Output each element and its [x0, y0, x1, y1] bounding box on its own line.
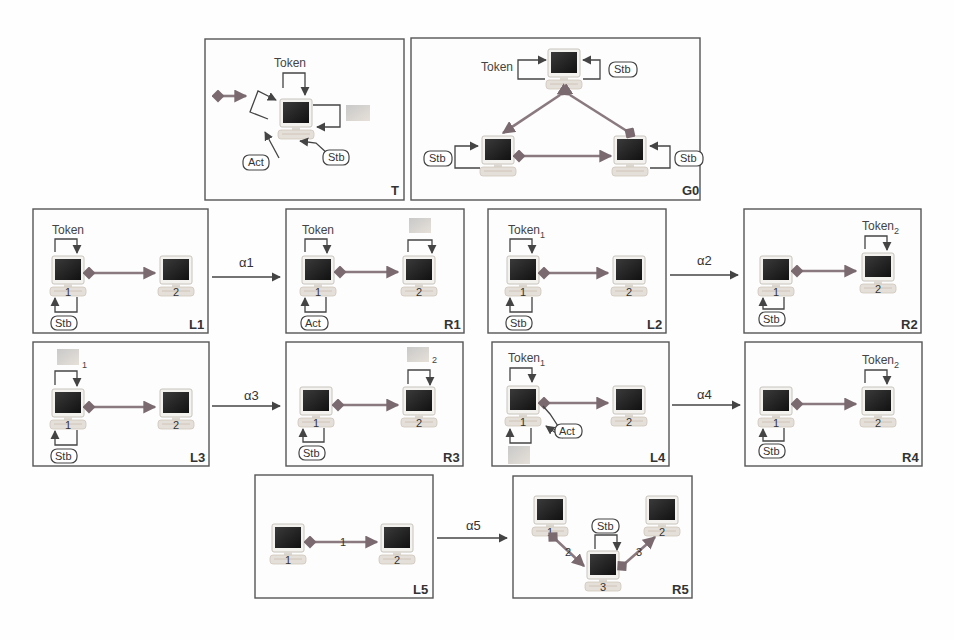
- node-number: 2: [626, 416, 632, 428]
- edge-label: 3: [636, 546, 642, 558]
- node-number: 1: [547, 526, 553, 538]
- panel-R3: 2 1 2 Stb R3: [286, 342, 463, 466]
- computer-icon: [612, 136, 648, 176]
- act-label: Act: [305, 317, 321, 329]
- rule-label: α2: [697, 253, 712, 268]
- node-number: 2: [416, 417, 422, 429]
- token-label: Token: [274, 56, 306, 70]
- node-number: 1: [315, 286, 321, 298]
- panel-L4: Token1 1 2 Act L4: [492, 342, 669, 466]
- message-icon: [409, 218, 431, 233]
- message-index: 2: [432, 355, 437, 365]
- act-label: Act: [248, 156, 264, 168]
- stb-label: Stb: [303, 447, 320, 459]
- rule-label: α3: [244, 388, 259, 403]
- rule-arrow-alpha3: α3: [212, 388, 280, 406]
- graph-transformation-diagram: Token Act Stb T Token Stb Stb Stb: [0, 0, 954, 640]
- rule-label: α1: [239, 255, 254, 270]
- message-icon: [508, 446, 530, 464]
- stb-label: Stb: [763, 313, 780, 325]
- panel-L2: Token1 1 2 Stb L2: [488, 209, 666, 333]
- stb-label: Stb: [55, 450, 72, 462]
- token-label: Token: [52, 223, 84, 237]
- rule-arrow-alpha4: α4: [672, 387, 740, 405]
- token-label: Token: [481, 60, 513, 74]
- panel-L5: 1 2 1 L5: [255, 475, 433, 598]
- rule-arrow-alpha1: α1: [212, 255, 280, 277]
- panel-label-R3: R3: [443, 450, 460, 465]
- panel-label-L2: L2: [647, 317, 662, 332]
- node-number: 2: [416, 286, 422, 298]
- node-number: 2: [875, 283, 881, 295]
- panel-G0: Token Stb Stb Stb G0: [411, 38, 703, 200]
- panel-label-R5: R5: [672, 582, 689, 597]
- token-label: Token: [302, 223, 334, 237]
- node-number: 1: [313, 417, 319, 429]
- node-number: 3: [600, 581, 606, 593]
- stb-label: Stb: [429, 152, 446, 164]
- rule-label: α5: [466, 518, 481, 533]
- stb-label: Stb: [328, 151, 345, 163]
- rule-arrow-alpha2: α2: [670, 253, 738, 275]
- node-number: 1: [773, 417, 779, 429]
- computer-icon: [480, 136, 516, 176]
- node-number: 1: [285, 554, 291, 566]
- panel-label-R4: R4: [902, 450, 919, 465]
- edge-label: 2: [565, 546, 571, 558]
- panel-label-T: T: [391, 183, 399, 198]
- panel-label-R2: R2: [901, 317, 918, 332]
- node-number: 1: [65, 419, 71, 431]
- stb-label: Stb: [763, 445, 780, 457]
- edge-label: 1: [340, 536, 346, 548]
- rule-label: α4: [697, 387, 712, 402]
- rule-arrow-alpha5: α5: [437, 518, 507, 538]
- panel-label-L1: L1: [189, 317, 204, 332]
- panel-R1: Token 1 2 Act R1: [286, 209, 464, 333]
- panel-L1: Token 1 2 Stb L1: [33, 209, 208, 333]
- node-number: 1: [520, 416, 526, 428]
- node-number: 1: [520, 286, 526, 298]
- message-icon: [57, 349, 79, 365]
- panel-L3: 1 1 2 Stb L3: [33, 342, 209, 466]
- panel-label-R1: R1: [444, 317, 461, 332]
- stb-label: Stb: [55, 317, 72, 329]
- computer-icon: [546, 49, 582, 89]
- node-number: 2: [173, 286, 179, 298]
- panel-label-L3: L3: [190, 450, 205, 465]
- node-number: 2: [875, 417, 881, 429]
- act-label: Act: [559, 425, 575, 437]
- panel-label-L5: L5: [413, 582, 428, 597]
- node-number: 1: [773, 286, 779, 298]
- node-number: 2: [173, 419, 179, 431]
- stb-label: Stb: [510, 317, 527, 329]
- panel-label-L4: L4: [650, 450, 666, 465]
- panel-R2: Token2 1 2 Stb R2: [744, 209, 921, 333]
- panel-R5: 1 2 3 2 3 Stb R5: [513, 476, 692, 598]
- panel-R4: Token2 1 2 Stb R4: [745, 342, 922, 466]
- node-number: 1: [65, 286, 71, 298]
- message-icon: [346, 105, 370, 121]
- node-number: 2: [394, 554, 400, 566]
- panel-T: Token Act Stb T: [205, 39, 404, 200]
- stb-label: Stb: [597, 520, 614, 532]
- node-number: 2: [659, 526, 665, 538]
- stb-label: Stb: [680, 152, 697, 164]
- message-index: 1: [82, 360, 87, 370]
- computer-icon: [278, 99, 314, 139]
- stb-label: Stb: [614, 63, 631, 75]
- node-number: 2: [626, 286, 632, 298]
- panel-label-G0: G0: [682, 183, 699, 198]
- message-icon: [407, 347, 429, 362]
